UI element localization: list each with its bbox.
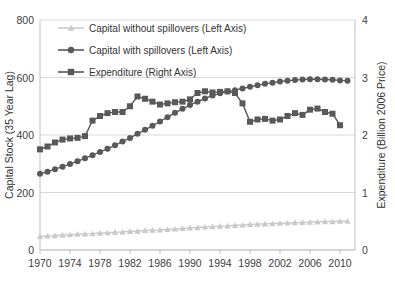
data-point-square (142, 96, 148, 102)
data-point-square (217, 89, 223, 95)
data-point-circle (165, 114, 171, 120)
legend-label: Capital with spillovers (Left Axis) (89, 45, 232, 56)
data-point-circle (187, 102, 193, 108)
data-point-circle (255, 82, 261, 88)
data-point-circle (180, 106, 186, 112)
data-point-square (270, 118, 276, 124)
data-point-circle (247, 84, 253, 90)
data-point-square (165, 100, 171, 106)
data-point-square (307, 107, 313, 113)
series-2 (37, 88, 343, 152)
data-point-circle (307, 76, 313, 82)
data-point-square (247, 119, 253, 125)
y-tick-label: 0 (28, 244, 34, 256)
data-point-circle (322, 77, 328, 83)
data-point-square (315, 106, 321, 112)
data-point-circle (300, 77, 306, 83)
data-point-circle (150, 123, 156, 129)
x-tick-label: 1978 (88, 257, 112, 269)
data-point-square (68, 69, 74, 75)
data-point-square (157, 102, 163, 108)
data-point-circle (157, 118, 163, 124)
data-point-circle (68, 47, 74, 53)
legend-item-1: Capital with spillovers (Left Axis) (58, 45, 232, 56)
data-point-circle (90, 152, 96, 158)
data-point-circle (127, 135, 133, 141)
data-point-square (292, 110, 298, 116)
data-point-square (105, 110, 111, 116)
data-point-square (45, 144, 51, 150)
data-point-square (187, 96, 193, 102)
data-point-square (300, 112, 306, 118)
data-point-square (135, 93, 141, 99)
x-tick-label: 1998 (238, 257, 262, 269)
data-point-square (112, 109, 118, 115)
x-tick-label: 1982 (118, 257, 142, 269)
data-point-square (82, 133, 88, 139)
data-point-square (150, 99, 156, 105)
data-point-square (322, 109, 328, 115)
data-point-square (52, 139, 58, 145)
data-point-square (277, 116, 283, 122)
data-point-circle (37, 171, 43, 177)
data-point-circle (277, 79, 283, 85)
data-point-circle (330, 77, 336, 83)
y-tick-label: 600 (16, 72, 34, 84)
data-point-circle (285, 78, 291, 84)
data-point-circle (45, 169, 51, 175)
data-point-circle (202, 95, 208, 101)
data-point-circle (345, 78, 351, 84)
y-tick-label: 200 (16, 187, 34, 199)
data-point-square (75, 135, 81, 141)
data-point-square (210, 89, 216, 95)
data-point-square (67, 135, 73, 141)
x-tick-label: 1974 (58, 257, 82, 269)
data-point-square (60, 137, 66, 143)
y2-tick-label: 1 (362, 187, 368, 199)
data-point-square (120, 109, 126, 115)
data-point-circle (60, 164, 66, 170)
y2-tick-label: 0 (362, 244, 368, 256)
y2-tick-label: 3 (362, 72, 368, 84)
chart-container: 0200400600800012341970197419781982198619… (0, 0, 395, 284)
y-tick-label: 400 (16, 129, 34, 141)
y-tick-label: 800 (16, 14, 34, 26)
data-point-square (180, 99, 186, 105)
chart-plot: 0200400600800012341970197419781982198619… (0, 0, 395, 284)
data-point-square (97, 113, 103, 119)
x-tick-label: 2002 (268, 257, 292, 269)
data-point-square (255, 116, 261, 122)
data-point-square (202, 88, 208, 94)
data-point-square (330, 111, 336, 117)
data-point-circle (270, 80, 276, 86)
data-point-circle (135, 131, 141, 137)
x-tick-label: 1990 (178, 257, 202, 269)
y2-axis-title: Expenditure (Billion 2006 Price) (375, 61, 387, 208)
data-point-square (225, 88, 231, 94)
data-point-circle (240, 85, 246, 91)
data-point-circle (337, 77, 343, 83)
y-axis-title: Capital Stock (35 Year Lag) (3, 71, 15, 199)
data-point-circle (292, 77, 298, 83)
legend-label: Expenditure (Right Axis) (89, 67, 196, 78)
data-point-square (195, 90, 201, 96)
data-point-square (337, 122, 343, 128)
data-point-circle (112, 142, 118, 148)
x-tick-label: 1994 (208, 257, 232, 269)
legend-item-0: Capital without spillovers (Left Axis) (58, 23, 246, 34)
data-point-circle (105, 146, 111, 152)
data-point-square (232, 90, 238, 96)
x-tick-label: 1986 (148, 257, 172, 269)
data-point-circle (172, 110, 178, 116)
x-tick-label: 2010 (328, 257, 352, 269)
data-point-circle (262, 81, 268, 87)
data-point-square (90, 118, 96, 124)
series-0 (37, 218, 351, 239)
series-1 (37, 76, 351, 177)
data-point-circle (52, 166, 58, 172)
data-point-square (127, 103, 133, 109)
data-point-circle (142, 127, 148, 133)
data-point-square (172, 99, 178, 105)
data-point-square (37, 146, 43, 152)
y2-tick-label: 4 (362, 14, 368, 26)
